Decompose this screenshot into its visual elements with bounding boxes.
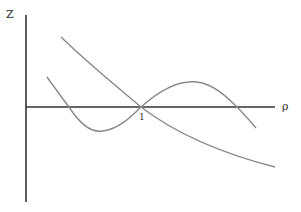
- diagram-canvas: [0, 0, 301, 212]
- z-axis-label: Z: [6, 9, 14, 20]
- oscillating-curve: [47, 77, 256, 131]
- intersection-label: 1: [139, 113, 145, 122]
- rho-axis-label: ρ: [282, 101, 288, 112]
- decreasing-curve: [61, 37, 275, 167]
